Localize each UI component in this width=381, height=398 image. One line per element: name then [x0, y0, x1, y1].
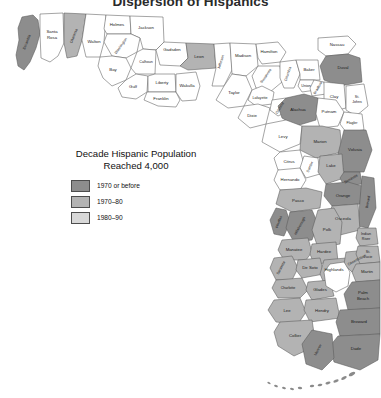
- label-st-lucie-1: St.: [366, 250, 370, 254]
- label-indian-river-2: River: [362, 237, 371, 241]
- label-highlands: Highlands: [324, 267, 343, 272]
- label-holmes: Holmes: [110, 22, 125, 27]
- label-martin: Martin: [361, 269, 374, 274]
- label-duval: Duval: [338, 65, 349, 70]
- label-collier: Collier: [289, 333, 302, 338]
- legend-label-3: 1980–90: [97, 214, 123, 221]
- label-palm-beach-1: Palm: [358, 290, 368, 295]
- legend-rows: 1970 or before 1970–80 1980–90: [71, 179, 230, 224]
- label-polk: Polk: [323, 227, 332, 232]
- label-lafayette: Lafayette: [253, 96, 268, 100]
- county-lake[interactable]: [318, 154, 344, 184]
- label-de-soto: De Soto: [302, 265, 318, 270]
- label-clay: Clay: [330, 94, 339, 99]
- label-flagler: Flagler: [347, 121, 359, 125]
- label-alachua: Alachua: [290, 107, 306, 112]
- label-gadsden: Gadsden: [163, 47, 181, 52]
- label-hendry: Hendry: [315, 308, 330, 313]
- label-santa-rosa-2: Rosa: [47, 35, 58, 40]
- label-gulf: Gulf: [129, 84, 138, 89]
- label-palm-beach-2: Beach: [357, 296, 370, 301]
- label-st-lucie-2: Lucie: [364, 255, 373, 259]
- label-walton: Walton: [87, 39, 101, 44]
- legend-swatch-dark: [71, 180, 90, 192]
- label-st-johns-1: St.: [355, 95, 359, 99]
- label-st-johns-2: Johns: [352, 100, 362, 104]
- label-baker: Baker: [303, 67, 315, 72]
- label-manatee: Manatee: [286, 247, 303, 252]
- legend-item-1980-90[interactable]: 1980–90: [71, 211, 230, 224]
- label-hardee: Hardee: [317, 249, 332, 254]
- county-dade[interactable]: [330, 334, 380, 370]
- label-lake: Lake: [326, 163, 336, 168]
- legend-item-1970-80[interactable]: 1970–80: [71, 195, 230, 208]
- label-dade: Dade: [351, 346, 362, 351]
- label-putnam: Putnam: [322, 109, 337, 114]
- legend-label-2: 1970–80: [97, 198, 123, 205]
- label-osceola: Osceola: [335, 216, 351, 221]
- county-gadsden[interactable]: [156, 42, 188, 66]
- label-bay: Bay: [109, 67, 117, 72]
- label-nassau: Nassau: [330, 42, 345, 47]
- label-glades: Glades: [313, 287, 327, 292]
- legend-title: Decade Hispanic Population Reached 4,000: [60, 148, 212, 172]
- label-indian-river-1: Indian: [361, 232, 371, 236]
- label-volusia: Volusia: [348, 147, 362, 152]
- florida-keys: [267, 371, 356, 391]
- legend-label-1: 1970 or before: [97, 182, 140, 189]
- label-marion: Marion: [313, 139, 327, 144]
- label-calhoun: Calhoun: [139, 60, 152, 64]
- county-madison[interactable]: [230, 43, 258, 76]
- label-leon: Leon: [194, 54, 204, 59]
- label-franklin: Franklin: [153, 96, 169, 101]
- label-dixie: Dixie: [247, 113, 257, 118]
- county-sarasota[interactable]: [270, 256, 298, 280]
- label-orange: Orange: [336, 193, 351, 198]
- legend-title-line2: Reached 4,000: [103, 160, 168, 171]
- legend-swatch-light: [71, 212, 90, 224]
- county-walton[interactable]: [82, 14, 106, 57]
- legend-item-1970-or-before[interactable]: 1970 or before: [71, 179, 230, 192]
- label-broward: Broward: [351, 319, 368, 324]
- label-pasco: Pasco: [292, 198, 305, 203]
- label-charlotte: Charlotte: [281, 286, 296, 290]
- label-wakulla: Wakulla: [179, 83, 195, 88]
- map-figure: Dispersion of Hispanics: [0, 0, 381, 398]
- label-santa-rosa-1: Santa: [46, 29, 58, 34]
- label-jackson: Jackson: [138, 25, 154, 30]
- label-union: Union: [301, 84, 310, 88]
- label-hamilton: Hamilton: [261, 49, 279, 54]
- label-citrus: Citrus: [283, 159, 294, 164]
- label-madison: Madison: [235, 53, 252, 58]
- label-hernando: Hernando: [281, 177, 300, 182]
- label-levy: Levy: [278, 134, 288, 139]
- legend-title-line1: Decade Hispanic Population: [76, 148, 197, 159]
- legend-swatch-medium: [71, 196, 90, 208]
- label-taylor: Taylor: [228, 90, 240, 95]
- map-legend: Decade Hispanic Population Reached 4,000…: [60, 148, 230, 227]
- label-lee: Lee: [283, 308, 291, 313]
- label-liberty: Liberty: [156, 80, 170, 85]
